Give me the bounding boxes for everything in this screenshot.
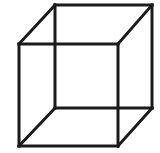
connector-bottom-right-edge: [118, 108, 152, 146]
cube-line-drawing: [0, 0, 160, 153]
necker-cube-figure: Necker cube: [0, 0, 160, 153]
connector-bottom-left-edge: [19, 108, 55, 146]
cube-edge-group: [19, 5, 152, 146]
connector-top-left-edge: [19, 5, 55, 44]
connector-top-right-edge: [118, 5, 152, 44]
